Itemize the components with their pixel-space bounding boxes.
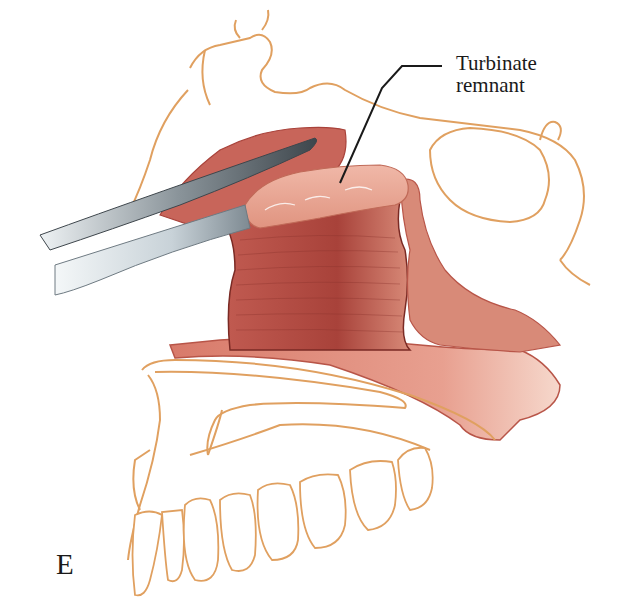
tooth-canine <box>162 510 184 581</box>
posterior-mucosa <box>400 179 560 352</box>
tooth-premolar-2 <box>220 493 256 571</box>
tooth-molar-2 <box>300 474 346 548</box>
panel-letter: E <box>56 548 74 581</box>
nasal-cavity-illustration: Turbinate remnant E <box>0 0 621 608</box>
tooth-premolar-1 <box>184 498 219 580</box>
tooth-molar-1 <box>258 483 299 560</box>
tooth-incisor <box>133 512 163 596</box>
maxillary-teeth <box>133 448 433 596</box>
callout-line-2: remnant <box>456 74 537 96</box>
callout-line-1: Turbinate <box>456 52 537 74</box>
tooth-molar-4 <box>398 448 433 510</box>
callout-turbinate-remnant: Turbinate remnant <box>456 52 537 96</box>
tooth-molar-3 <box>350 461 396 530</box>
